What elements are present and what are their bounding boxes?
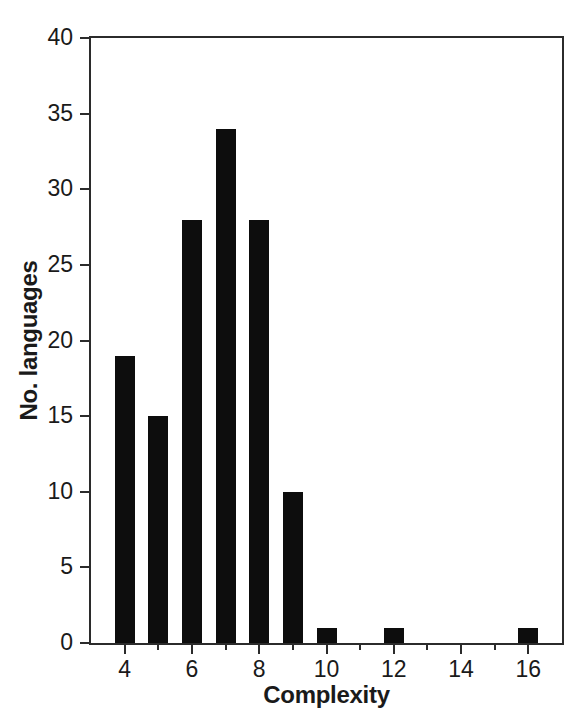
x-tick-mark — [292, 645, 294, 650]
x-tick-label: 12 — [364, 656, 424, 683]
y-tick-mark — [80, 264, 89, 266]
x-tick-label: 10 — [297, 656, 357, 683]
y-tick-mark — [80, 642, 89, 644]
y-tick-mark — [80, 566, 89, 568]
y-tick-label: 35 — [0, 100, 73, 127]
bar — [317, 628, 337, 643]
y-tick-label: 25 — [0, 251, 73, 278]
x-tick-label: 4 — [95, 656, 155, 683]
y-tick-label: 0 — [0, 629, 73, 656]
plot-area — [91, 38, 562, 643]
y-tick-mark — [80, 113, 89, 115]
x-tick-mark — [527, 645, 529, 654]
y-tick-label: 10 — [0, 478, 73, 505]
x-tick-mark — [157, 645, 159, 650]
y-tick-mark — [80, 415, 89, 417]
x-tick-mark — [258, 645, 260, 654]
x-tick-label: 6 — [162, 656, 222, 683]
bar — [249, 220, 269, 644]
x-tick-mark — [426, 645, 428, 650]
bar — [216, 129, 236, 643]
y-tick-mark — [80, 37, 89, 39]
x-tick-mark — [494, 645, 496, 650]
histogram-figure: No. languages 0510152025303540 468101214… — [0, 0, 581, 713]
y-tick-label: 15 — [0, 402, 73, 429]
x-tick-mark — [460, 645, 462, 654]
bar — [182, 220, 202, 644]
x-axis-title: Complexity — [89, 681, 564, 709]
x-tick-label: 14 — [431, 656, 491, 683]
bar — [148, 416, 168, 643]
x-tick-label: 16 — [498, 656, 558, 683]
y-tick-mark — [80, 340, 89, 342]
bar — [283, 492, 303, 643]
x-tick-mark — [393, 645, 395, 654]
bar — [115, 356, 135, 643]
bar — [384, 628, 404, 643]
y-tick-label: 20 — [0, 327, 73, 354]
bar — [518, 628, 538, 643]
y-tick-mark — [80, 491, 89, 493]
x-tick-mark — [124, 645, 126, 654]
x-tick-mark — [225, 645, 227, 650]
x-tick-label: 8 — [229, 656, 289, 683]
y-tick-mark — [80, 188, 89, 190]
y-tick-label: 5 — [0, 553, 73, 580]
y-tick-label: 30 — [0, 175, 73, 202]
x-tick-mark — [326, 645, 328, 654]
x-tick-mark — [191, 645, 193, 654]
y-tick-label: 40 — [0, 24, 73, 51]
x-tick-mark — [359, 645, 361, 650]
